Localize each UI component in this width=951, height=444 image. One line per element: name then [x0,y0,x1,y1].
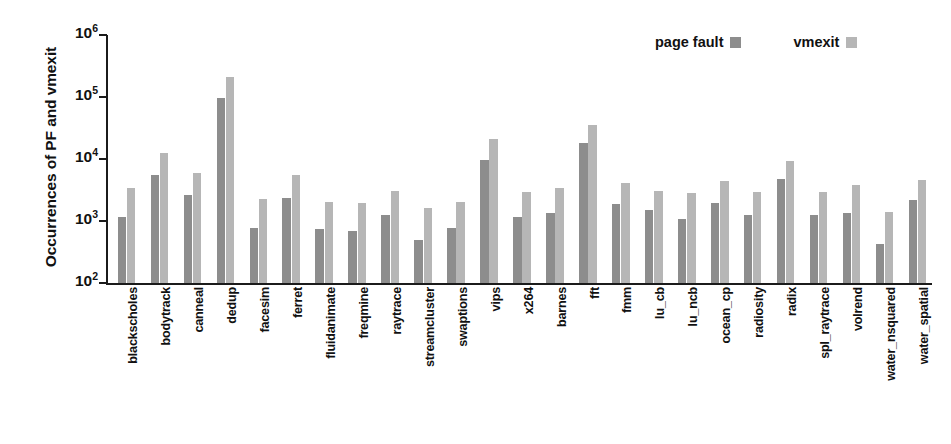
bar-group [744,35,762,283]
y-tick-mark [99,158,107,160]
x-axis-labels: blackscholesbodytrackcannealdedupfacesim… [108,287,932,437]
page-fault-swatch-icon [730,37,741,48]
bar-page-fault [381,215,389,283]
bar-group [217,35,235,283]
bar-page-fault [348,231,356,283]
bar-group [579,35,597,283]
vmexit-swatch-icon [846,37,857,48]
bar-page-fault [843,213,851,283]
y-tick-label: 103 [48,211,98,227]
x-tick-label: ferret [291,287,305,318]
bar-group [513,35,531,283]
x-tick-label: fluidanimate [324,287,338,359]
bar-page-fault [546,213,554,283]
bar-page-fault [480,160,488,283]
x-tick-label: canneal [192,287,206,333]
bar-vmexit [654,191,662,283]
bar-vmexit [193,173,201,283]
bar-group [447,35,465,283]
plot-area [108,35,932,283]
bar-vmexit [127,188,135,283]
bar-page-fault [151,175,159,283]
x-tick-label: water_nsquared [884,287,898,381]
x-tick-label: bodytrack [159,287,173,345]
bar-page-fault [315,229,323,283]
x-tick-label: freqmine [357,287,371,339]
bar-group [678,35,696,283]
bar-page-fault [579,143,587,283]
bar-page-fault [250,228,258,283]
x-tick-label: fft [588,287,602,299]
bar-page-fault [513,217,521,283]
x-tick-label: facesim [258,287,272,333]
legend-label-page-fault: page fault [655,34,723,50]
bar-group [480,35,498,283]
bar-vmexit [588,125,596,283]
x-tick-label: spl_raytrace [818,287,832,359]
bar-group [810,35,828,283]
chart-figure: Occurrences of PF and vmexit 10610510410… [0,0,951,444]
bar-vmexit [325,202,333,283]
bar-vmexit [391,191,399,283]
bar-vmexit [259,199,267,283]
legend-entry-vmexit[interactable]: vmexit [793,34,857,50]
bar-page-fault [909,200,917,283]
bar-group [546,35,564,283]
bar-page-fault [118,217,126,283]
y-tick-label: 104 [48,149,98,165]
bar-page-fault [612,204,620,283]
bar-group [645,35,663,283]
bar-page-fault [711,203,719,283]
y-tick-mark [99,34,107,36]
x-tick-label: raytrace [390,287,404,334]
bar-vmexit [555,188,563,283]
bar-page-fault [777,179,785,283]
bar-group [414,35,432,283]
bar-vmexit [358,203,366,283]
bar-vmexit [786,161,794,283]
bar-group [151,35,169,283]
bar-vmexit [456,202,464,283]
x-tick-label: streamcluster [423,287,437,367]
bar-vmexit [687,193,695,283]
bar-vmexit [424,208,432,283]
x-tick-label: lu_cb [653,287,667,319]
x-tick-label: vips [489,287,503,311]
y-tick-label: 106 [48,25,98,41]
bar-page-fault [414,240,422,283]
legend-entry-page-fault[interactable]: page fault [655,34,741,50]
x-axis-line [106,283,932,285]
bar-page-fault [282,198,290,283]
bar-page-fault [217,98,225,283]
x-tick-label: fmm [620,287,634,313]
y-tick-mark [99,220,107,222]
x-tick-label: swaptions [456,287,470,347]
x-tick-label: radix [785,287,799,316]
bar-vmexit [819,192,827,283]
bar-group [876,35,894,283]
bar-group [282,35,300,283]
bar-group [250,35,268,283]
bar-page-fault [184,195,192,283]
bar-vmexit [885,212,893,283]
bar-group [777,35,795,283]
x-tick-label: x264 [522,287,536,314]
bar-group [315,35,333,283]
bar-vmexit [292,175,300,283]
x-tick-label: water_spatial [917,287,931,364]
y-tick-mark [99,96,107,98]
bar-page-fault [447,228,455,283]
bar-group [184,35,202,283]
x-tick-label: dedup [225,287,239,324]
bar-group [711,35,729,283]
x-tick-label: radiosity [752,287,766,338]
x-tick-label: blackscholes [126,287,140,364]
bar-group [843,35,861,283]
bar-group [348,35,366,283]
bar-page-fault [645,210,653,283]
y-tick-label: 102 [48,273,98,289]
bar-vmexit [918,180,926,283]
bar-vmexit [852,185,860,283]
bar-page-fault [678,219,686,283]
bar-group [612,35,630,283]
